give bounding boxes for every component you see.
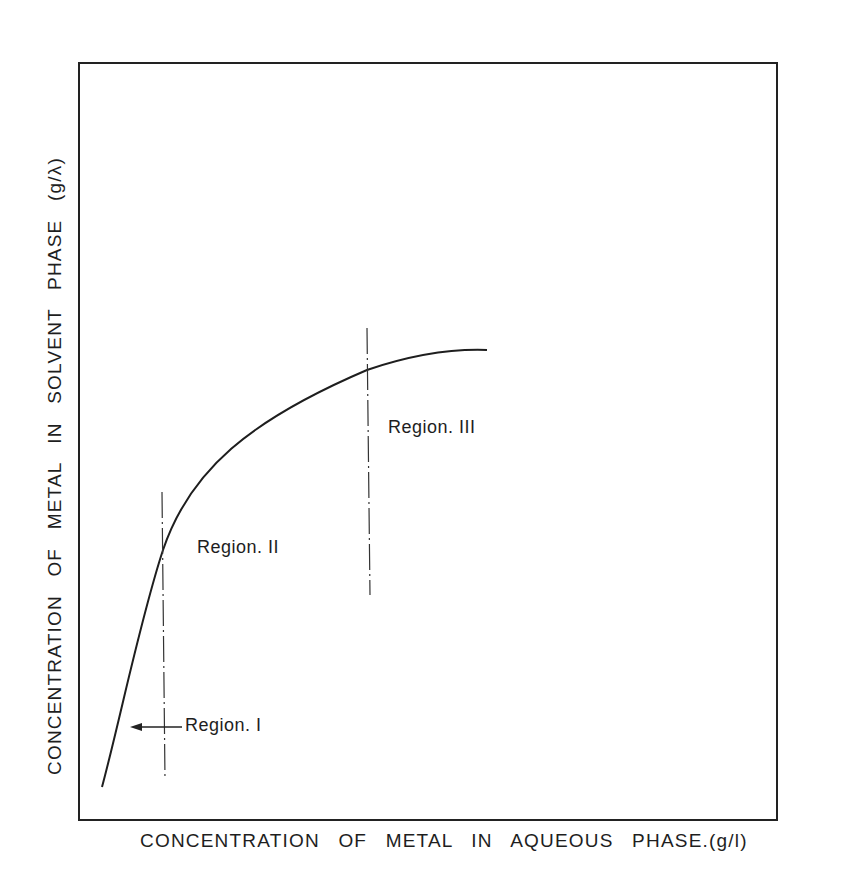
region-3-label: Region. III — [388, 417, 476, 438]
x-axis-label: CONCENTRATION OF METAL IN AQUEOUS PHASE.… — [140, 830, 748, 852]
isotherm-diagram — [0, 0, 859, 895]
divider-region-1-2 — [162, 492, 165, 780]
y-axis-label: CONCENTRATION OF METAL IN SOLVENT PHASE … — [44, 157, 66, 775]
isotherm-curve — [102, 350, 487, 787]
divider-region-2-3 — [367, 328, 370, 595]
plot-frame — [79, 63, 777, 820]
arrow-left-icon — [130, 723, 142, 731]
region-2-label: Region. II — [197, 537, 279, 558]
region-1-label: Region. I — [185, 715, 262, 736]
